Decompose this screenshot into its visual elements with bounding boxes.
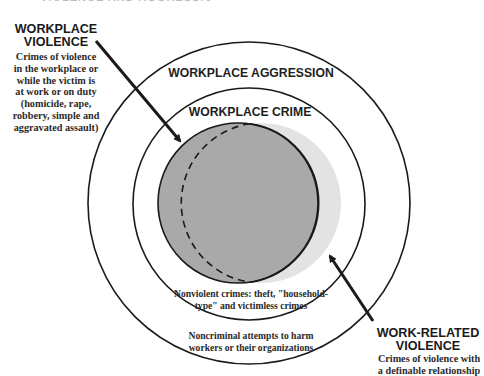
workplace-aggression-label: WORKPLACE AGGRESSION	[168, 66, 334, 80]
work-related-violence-arrow	[330, 256, 373, 321]
workplace-violence-heading: WORKPLACE VIOLENCE	[8, 23, 104, 49]
workplace-violence-arrow	[96, 41, 180, 141]
nonviolent-crimes-text: Nonviolent crimes: theft, "household- ty…	[166, 288, 336, 312]
noncriminal-attempts-text: Noncriminal attempts to harm workers or …	[176, 330, 326, 354]
workplace-crime-label: WORKPLACE CRIME	[185, 105, 315, 119]
diagram-canvas: VIOLENCE AND AGGRESSION WORKPLACE AGGRES…	[0, 0, 484, 376]
workplace-violence-description: Crimes of violence in the workplace or w…	[6, 51, 106, 134]
work-related-violence-description: Crimes of violence with a definable rela…	[374, 353, 484, 376]
work-related-violence-heading: WORK-RELATED VIOLENCE	[372, 327, 484, 353]
